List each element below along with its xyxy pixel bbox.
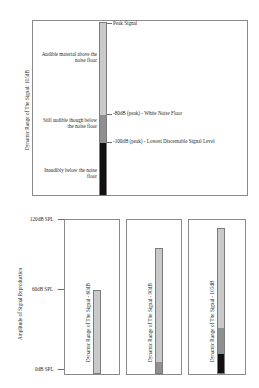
bar-90db-label: Dynamic Range of The Signal - 90dB	[147, 283, 153, 362]
top-tick-peak	[107, 23, 112, 24]
top-bar-segment-audible	[100, 23, 106, 115]
top-chart-panel: Peak Signal -80dB (peak) - White Noise F…	[32, 20, 248, 196]
annotation-audible-above-noise-floor: Audible material above the noise floor	[39, 51, 97, 63]
bottom-panel-105db: Dynamic Range of The Signal - 105dB	[188, 219, 246, 375]
bar-90db	[155, 248, 163, 374]
annotation-white-noise-floor: -80dB (peak) - White Noise Floor	[113, 110, 182, 116]
bar-60db-label: Dynamic Range of The Signal - 60dB	[85, 283, 91, 362]
bottom-tick-label-60db: 60dB SPL	[32, 286, 53, 292]
bar-105db-segment-below-noise-floor	[218, 328, 224, 354]
bottom-panel-60db: Dynamic Range of The Signal - 60dB	[64, 219, 120, 375]
top-signal-bar	[99, 22, 107, 196]
bottom-tick-label-120db: 120dB SPL	[30, 216, 54, 222]
top-bar-segment-inaudible	[100, 143, 106, 196]
bottom-chart-axis-title: Amplitude of Signal Reproduction	[17, 268, 23, 340]
bar-60db-segment-audible	[94, 291, 100, 373]
annotation-inaudibly-below-noise-floor: Inaudibly below the noise floor	[41, 167, 97, 179]
top-tick-noise-floor	[107, 114, 112, 115]
top-tick-lowest-discernable	[107, 142, 112, 143]
bar-105db-label: Dynamic Range of The Signal - 105dB	[209, 281, 215, 362]
annotation-peak-signal: Peak Signal	[113, 20, 137, 26]
top-chart-axis-title: Dynamic Range of The Signal: 105dB	[24, 70, 30, 150]
bar-90db-segment-below-noise-floor	[156, 362, 162, 373]
bar-105db-segment-audible	[218, 229, 224, 328]
annotation-still-audible-below-noise-floor: Still audible though below the noise flo…	[37, 117, 97, 129]
bar-90db-segment-audible	[156, 249, 162, 362]
bar-60db	[93, 290, 101, 374]
annotation-lowest-discernable-signal: -100dB (peak) - Lowest Discernable Signa…	[113, 138, 215, 144]
bar-105db	[217, 228, 225, 374]
bottom-tick-label-0db: 0dB SPL	[35, 366, 54, 372]
bottom-panel-90db: Dynamic Range of The Signal - 90dB	[126, 219, 182, 375]
top-bar-segment-below-noise-floor	[100, 115, 106, 143]
bar-105db-segment-inaudible	[218, 354, 224, 373]
